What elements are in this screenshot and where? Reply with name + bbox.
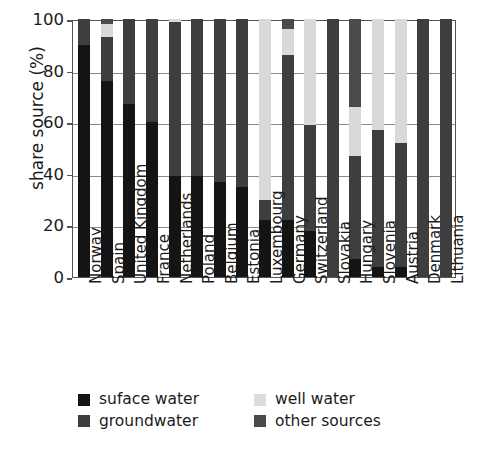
legend-label: well water (275, 392, 355, 408)
bar-segment-ground (78, 19, 90, 45)
legend-swatch-surface-icon (78, 394, 90, 406)
y-tick-label: 80 (18, 64, 64, 81)
bar-segment-well (304, 19, 316, 125)
y-tick-mark (67, 278, 72, 280)
x-tick-label: Slovakia (338, 221, 353, 284)
legend-swatch-ground-icon (78, 415, 90, 427)
legend-item-ground[interactable]: groundwater (78, 414, 254, 430)
legend-item-well[interactable]: well water (254, 392, 430, 408)
y-tick-label: 60 (18, 115, 64, 132)
x-tick-label: Netherlands (180, 193, 195, 284)
bar-segment-well (395, 19, 407, 143)
bar-segment-well (349, 107, 361, 156)
legend-label: groundwater (99, 414, 198, 430)
bar-segment-ground (146, 19, 158, 122)
bar-segment-ground (123, 19, 135, 104)
y-tick-label: 100 (18, 12, 64, 29)
bar-segment-ground (101, 37, 113, 81)
x-tick-label: United Kingdom (134, 164, 149, 284)
x-tick-label: Austria (406, 231, 421, 284)
bar-segment-other (282, 19, 294, 29)
x-tick-label: Spain (112, 242, 127, 284)
bar-segment-well (259, 19, 271, 200)
bar-segment-other (349, 19, 361, 107)
x-tick-label: Germany (293, 215, 308, 284)
y-tick-label: 0 (18, 270, 64, 287)
x-tick-label: Slovenia (383, 220, 398, 284)
legend-label: other sources (275, 414, 381, 430)
x-tick-label: Estonia (247, 229, 262, 284)
bar-segment-ground (169, 22, 181, 177)
x-tick-label: Norway (89, 227, 104, 284)
y-tick-label: 40 (18, 167, 64, 184)
x-tick-label: Luxembourg (270, 191, 285, 285)
legend-item-surface[interactable]: suface water (78, 392, 254, 408)
stacked-bar-chart: share source (%) 020406080100 NorwaySpai… (0, 0, 483, 454)
bar-segment-well (372, 19, 384, 130)
x-tick-label: Poland (202, 234, 217, 284)
legend-swatch-well-icon (254, 394, 266, 406)
legend-swatch-other-icon (254, 415, 266, 427)
x-tick-label: Hungary (360, 220, 375, 284)
x-tick-label: Lithuania (451, 215, 466, 284)
bar-segment-ground (236, 19, 248, 187)
bar-segment-ground (191, 19, 203, 176)
chart-legend: suface waterwell watergroundwaterother s… (78, 392, 418, 429)
x-tick-label: Denmark (428, 215, 443, 284)
x-tick-label: Switzerland (315, 197, 330, 285)
legend-item-other[interactable]: other sources (254, 414, 430, 430)
y-tick-label: 20 (18, 218, 64, 235)
x-tick-label: Belgium (225, 223, 240, 285)
bar-segment-well (282, 29, 294, 55)
legend-label: suface water (99, 392, 199, 408)
bar-segment-well (101, 24, 113, 37)
x-tick-label: France (157, 234, 172, 284)
bar-segment-ground (214, 19, 226, 182)
